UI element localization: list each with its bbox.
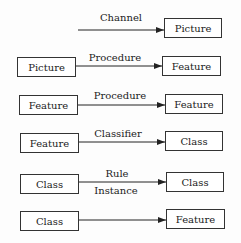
node-feature-target: Feature [162, 56, 221, 76]
edge-label-channel: Channel [100, 12, 142, 23]
edge-label-instance: Instance [94, 185, 137, 196]
node-class-source: Class [20, 211, 79, 231]
node-feature-target: Feature [166, 209, 225, 229]
edge-label-rule: Rule [105, 168, 128, 179]
edge-label-procedure: Procedure [94, 90, 147, 101]
node-picture-source: Picture [17, 57, 76, 77]
node-class-source: Class [20, 174, 79, 194]
edge-label-procedure: Procedure [89, 52, 142, 63]
node-feature-source: Feature [19, 95, 78, 115]
node-feature-source: Feature [20, 133, 79, 153]
mapping-diagram: Channel Picture Picture Procedure Featur… [0, 0, 241, 243]
edge-label-classifier: Classifier [94, 128, 142, 139]
node-class-target: Class [166, 172, 224, 192]
node-picture-target: Picture [164, 18, 222, 38]
node-class-target: Class [165, 131, 223, 151]
node-feature-target: Feature [165, 94, 223, 114]
